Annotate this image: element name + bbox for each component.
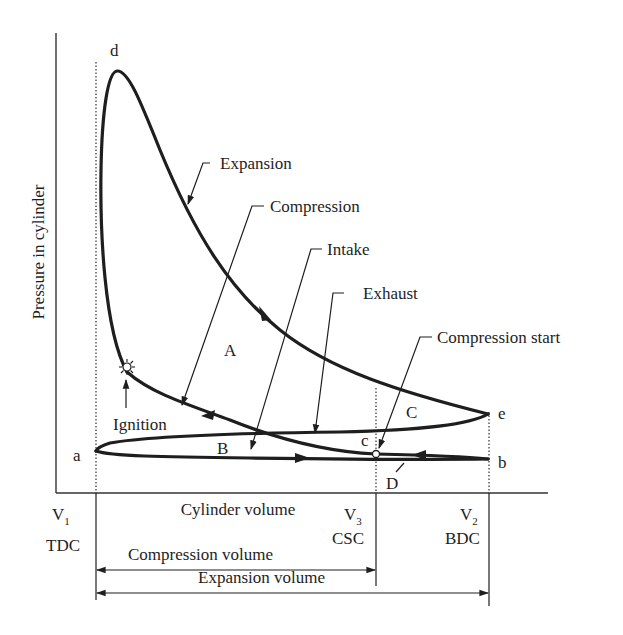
svg-text:V3: V3 [344,505,362,527]
exhaust-leader [315,293,344,433]
v3-name: CSC [332,529,364,548]
point-a-label: a [73,446,81,465]
region-d-leader [396,463,404,472]
point-d-label: d [110,41,119,60]
compression-callout: Compression [270,197,360,216]
expansion-leader [188,163,210,204]
point-c-label: c [361,431,369,450]
v2-symbol: V [460,505,473,524]
y-axis-label: Pressure in cylinder [29,184,48,319]
compression-volume-label: Compression volume [128,545,273,564]
v2-mark: V2 BDC [445,505,480,548]
v1-symbol: V [52,505,65,524]
intake-callout: Intake [327,240,369,259]
expansion-flow-arrow-icon [259,306,271,321]
svg-text:V2: V2 [460,505,478,527]
expansion-volume-label: Expansion volume [198,568,325,587]
compression-start-callout: Compression start [437,328,561,347]
compression-curve [127,372,376,454]
pv-diagram: Pressure in cylinder Cylinder volume d a… [0,0,623,635]
x-axis-label: Cylinder volume [181,500,296,519]
v2-subscript: 2 [472,515,478,527]
expansion-callout: Expansion [220,154,292,173]
region-b-label: B [217,439,228,458]
intake-flow-arrow-icon [295,453,310,463]
exhaust-callout: Exhaust [363,284,418,303]
ignition-callout: Ignition [113,415,167,434]
v1-subscript: 1 [64,515,70,527]
v1-mark: V1 TDC [46,505,80,555]
compression-volume-dimension: Compression volume [97,545,375,570]
flow-arrows [201,306,426,463]
expansion-volume-dimension: Expansion volume [97,568,488,593]
ignition-star-icon [119,359,135,375]
v3-mark: V3 CSC [332,505,364,548]
region-c-label: C [406,403,417,422]
cycle-curves [96,71,488,459]
intake-leader [251,249,322,449]
point-b-label: b [498,453,507,472]
v2-name: BDC [445,529,480,548]
compression-start-point-marker [373,451,380,458]
v3-subscript: 3 [356,515,362,527]
expansion-curve [101,71,488,414]
region-a-label: A [224,341,237,360]
region-d-label: D [386,474,398,493]
v3-symbol: V [344,505,357,524]
svg-text:V1: V1 [52,505,70,527]
point-e-label: e [498,404,506,423]
v1-name: TDC [46,536,80,555]
